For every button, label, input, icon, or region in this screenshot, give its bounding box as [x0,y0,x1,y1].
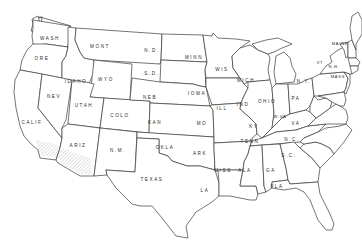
label-wva: W.VA [274,114,287,119]
label-sc: S.C. [281,153,296,158]
label-vt: VT [317,60,324,65]
label-calif: CALIF [21,120,42,125]
label-sd: S.D. [144,71,159,76]
label-va: VA [292,121,301,126]
us-outline-map: WASH ORE IDAHO MONT WYO NEV UTAH COLO CA… [0,0,362,244]
label-ohio: OHIO [258,99,276,104]
label-ala: ALA [238,168,251,173]
state-montana [75,28,162,64]
label-maine: MAINE [332,41,349,46]
label-nd: N.D. [144,48,160,53]
label-ill: ILL [216,106,227,111]
label-fla: FLA [270,184,283,189]
label-wyo: WYO [98,77,114,82]
label-tenn: TENN [241,139,260,144]
label-neb: NEB [143,95,157,100]
label-iowa: IOWA [188,91,206,96]
label-ark: ARK [193,151,207,156]
label-nc: N.C. [284,137,300,142]
label-ore: ORE [35,56,50,61]
label-nh: N.H. [328,64,339,69]
label-la: LA [201,188,210,193]
label-wash: WASH [40,36,60,41]
state-massachusetts [348,58,360,66]
label-texas: TEXAS [140,177,163,182]
label-idaho: IDAHO [65,79,88,84]
label-nm: N.M. [110,148,126,153]
label-wis: WIS [215,67,228,72]
label-utah: UTAH [75,103,94,108]
label-ariz: ARIZ [70,143,87,148]
label-mich: MICH [237,78,255,83]
label-pa: PA [292,96,301,101]
label-mass: MASS [331,74,346,79]
label-nev: NEV [47,94,61,99]
label-mo: MO [197,121,208,126]
label-ny: N.Y. [297,79,312,84]
label-minn: MINN [185,55,203,60]
label-miss: MISS [214,168,232,173]
state-washington [31,16,71,47]
label-mont: MONT [90,44,110,49]
label-ga: GA [266,168,276,173]
label-ky: KY [249,124,258,129]
label-ind: IND [237,102,250,107]
label-okla: OKLA [156,145,175,150]
label-colo: COLO [110,113,129,118]
label-kan: KAN [148,120,162,125]
